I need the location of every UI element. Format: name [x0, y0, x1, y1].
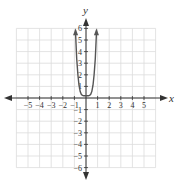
x-tick-label: −2: [59, 101, 68, 110]
x-tick-label: 4: [130, 101, 134, 110]
y-tick-label: −5: [73, 152, 82, 161]
y-tick-label: −3: [73, 129, 82, 138]
x-axis-right-arrow-icon: [160, 95, 168, 101]
x-tick-label: −5: [24, 101, 33, 110]
y-tick-label: −6: [73, 164, 82, 173]
x-tick-label: 3: [119, 101, 123, 110]
graph: xy−5−4−3−2−112345654321−1−2−3−4−5−6: [0, 0, 175, 190]
x-tick-label: −4: [35, 101, 44, 110]
y-axis-label: y: [82, 4, 88, 16]
y-tick-label: −4: [73, 140, 82, 149]
x-tick-label: 1: [96, 101, 100, 110]
y-axis-down-arrow-icon: [83, 172, 89, 180]
x-tick-label: 2: [107, 101, 111, 110]
y-tick-label: 5: [78, 36, 82, 45]
x-axis-left-arrow-icon: [4, 95, 12, 101]
curve-arrow-icon: [94, 28, 99, 35]
y-tick-label: 4: [78, 48, 82, 57]
x-tick-label: 5: [142, 101, 146, 110]
y-axis-up-arrow-icon: [83, 18, 89, 26]
y-tick-label: 6: [78, 24, 82, 33]
y-tick-label: 3: [78, 59, 82, 68]
y-tick-label: −2: [73, 117, 82, 126]
y-tick-label: −1: [73, 106, 82, 115]
x-tick-label: −3: [47, 101, 56, 110]
x-axis-label: x: [168, 92, 174, 104]
